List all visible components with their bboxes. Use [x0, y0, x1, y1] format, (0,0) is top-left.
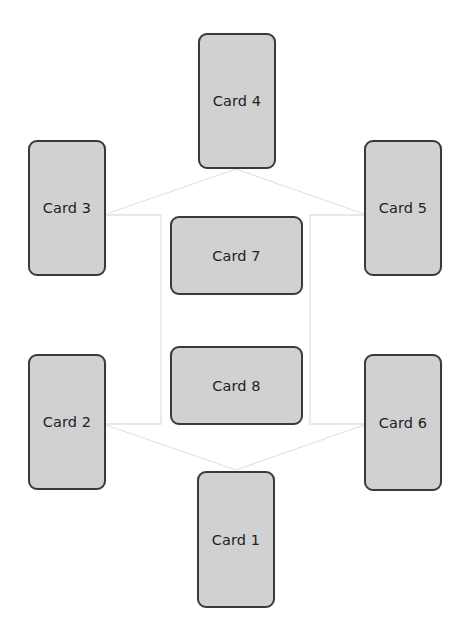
connector-card6-card1: [236, 425, 364, 470]
card-label: Card 1: [212, 532, 260, 548]
connector-card2-card1: [106, 425, 236, 470]
card-label: Card 6: [379, 415, 427, 431]
card-label: Card 3: [43, 200, 91, 216]
card-7[interactable]: Card 7: [170, 216, 303, 295]
card-5[interactable]: Card 5: [364, 140, 442, 276]
card-label: Card 7: [212, 248, 260, 264]
connector-card4-card3: [106, 169, 236, 214]
card-label: Card 8: [212, 378, 260, 394]
card-4[interactable]: Card 4: [198, 33, 276, 169]
connector-card4-card5: [236, 169, 364, 214]
card-label: Card 2: [43, 414, 91, 430]
card-label: Card 5: [379, 200, 427, 216]
connector-card5-card6: [310, 215, 364, 424]
card-label: Card 4: [213, 93, 261, 109]
card-2[interactable]: Card 2: [28, 354, 106, 490]
diagram-canvas: Card 1 Card 2 Card 3 Card 4 Card 5 Card …: [0, 0, 462, 633]
card-3[interactable]: Card 3: [28, 140, 106, 276]
card-1[interactable]: Card 1: [197, 471, 275, 608]
card-8[interactable]: Card 8: [170, 346, 303, 425]
connector-card3-card2: [106, 215, 161, 424]
card-6[interactable]: Card 6: [364, 354, 442, 491]
